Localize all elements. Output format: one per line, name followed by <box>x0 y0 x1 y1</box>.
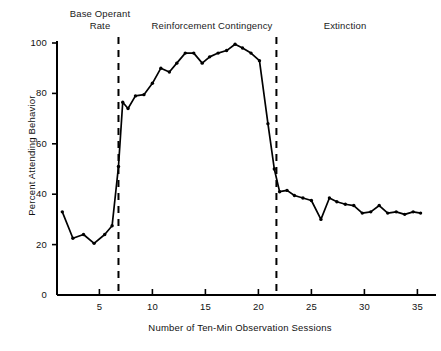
y-tick-label: 0 <box>19 289 47 300</box>
data-point <box>208 55 211 58</box>
data-point <box>201 61 204 64</box>
data-point <box>419 211 422 214</box>
data-point <box>151 82 154 85</box>
data-point <box>61 210 64 213</box>
data-point <box>293 194 296 197</box>
y-tick-label: 40 <box>19 188 47 199</box>
data-point <box>310 199 313 202</box>
y-tick-label: 80 <box>19 87 47 98</box>
data-point <box>395 210 398 213</box>
data-point <box>142 93 145 96</box>
data-point <box>249 51 252 54</box>
data-point <box>103 233 106 236</box>
chart-figure: Base Operant Rate Reinforcement Continge… <box>0 0 441 351</box>
data-point <box>92 242 95 245</box>
data-point <box>192 51 195 54</box>
data-point <box>159 67 162 70</box>
data-point <box>175 61 178 64</box>
data-point <box>328 196 331 199</box>
y-tick-label: 100 <box>19 37 47 48</box>
x-tick-label: 10 <box>142 301 162 312</box>
x-tick-label: 35 <box>407 301 427 312</box>
data-point <box>273 167 276 170</box>
data-point <box>378 204 381 207</box>
data-point <box>126 107 129 110</box>
data-point <box>319 218 322 221</box>
data-point <box>301 196 304 199</box>
data-point <box>117 165 120 168</box>
data-point <box>344 203 347 206</box>
y-tick-label: 60 <box>19 138 47 149</box>
x-tick-label: 15 <box>195 301 215 312</box>
data-point <box>134 94 137 97</box>
x-tick-label: 30 <box>354 301 374 312</box>
data-point <box>71 237 74 240</box>
x-tick-label: 5 <box>89 301 109 312</box>
data-point <box>168 70 171 73</box>
data-point <box>121 101 124 104</box>
plot-area <box>0 0 441 351</box>
x-tick-label: 25 <box>301 301 321 312</box>
series-line-0 <box>62 44 420 243</box>
y-tick-label: 20 <box>19 239 47 250</box>
data-point <box>411 210 414 213</box>
data-point <box>241 46 244 49</box>
data-point <box>278 190 281 193</box>
data-point <box>184 51 187 54</box>
data-point <box>361 211 364 214</box>
data-point <box>225 49 228 52</box>
data-point <box>285 189 288 192</box>
data-point <box>403 213 406 216</box>
data-point <box>266 122 269 125</box>
data-point <box>110 224 113 227</box>
data-point <box>386 211 389 214</box>
x-tick-label: 20 <box>248 301 268 312</box>
data-point <box>335 200 338 203</box>
data-point <box>258 59 261 62</box>
data-point <box>369 210 372 213</box>
data-point <box>352 204 355 207</box>
data-point <box>216 51 219 54</box>
data-point <box>233 43 236 46</box>
data-point <box>82 233 85 236</box>
